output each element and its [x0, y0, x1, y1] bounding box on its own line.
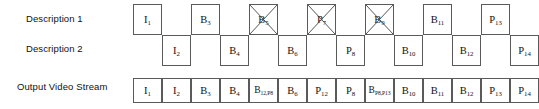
frame-label: B3: [192, 14, 219, 25]
frame-label: B3: [192, 85, 219, 96]
frame-cell-d2-b12: B12: [452, 35, 481, 66]
frame-cell-output-i1: I1: [133, 78, 162, 103]
frame-label: I1: [134, 85, 161, 96]
frame-label: P7: [308, 14, 335, 25]
frame-cell-d1-p7-lost: P7: [307, 4, 336, 35]
frame-label: B10: [395, 85, 422, 96]
output-stream-row: I1I2B3B4B12,P8B6P12P8BP8,P13B10B11B12P13…: [0, 70, 537, 109]
description-staircase: I1B3B5P7B9B11P13I2B4B6P8B10B12P14: [0, 0, 537, 70]
frame-cell-output-p8: P8: [336, 78, 365, 103]
frame-label: B11: [424, 85, 451, 96]
frame-cell-d2-p8: P8: [336, 35, 365, 66]
frame-label: P14: [511, 85, 538, 96]
frame-label: P8: [337, 45, 364, 56]
frame-label: P8: [337, 85, 364, 96]
frame-cell-output-p14: P14: [510, 78, 539, 103]
frame-label: B9: [366, 14, 393, 25]
frame-cell-d2-i2: I2: [162, 35, 191, 66]
frame-cell-output-b10: B10: [394, 78, 423, 103]
frame-label: P13: [482, 14, 509, 25]
frame-cell-d2-b6: B6: [278, 35, 307, 66]
frame-cell-output-p13: P13: [481, 78, 510, 103]
frame-label: B4: [221, 85, 248, 96]
frame-cell-output-b4: B4: [220, 78, 249, 103]
frame-label: B12,P8: [250, 86, 277, 96]
frame-cell-output-b6: B6: [278, 78, 307, 103]
frame-cell-d1-b9-lost: B9: [365, 4, 394, 35]
frame-label: B6: [279, 45, 306, 56]
frame-cell-d1-p13: P13: [481, 4, 510, 35]
frame-label: I2: [163, 45, 190, 56]
frame-cell-output-b12-P8: B12,P8: [249, 78, 278, 103]
frame-cell-output-i2: I2: [162, 78, 191, 103]
frame-label: B6: [279, 85, 306, 96]
frame-label: I1: [134, 14, 161, 25]
frame-cell-d1-b11: B11: [423, 4, 452, 35]
frame-cell-d1-i1: I1: [133, 4, 162, 35]
frame-label: BP8,P13: [366, 86, 393, 96]
frame-cell-output-b3: B3: [191, 78, 220, 103]
frame-cell-d2-b10: B10: [394, 35, 423, 66]
frame-label: B10: [395, 45, 422, 56]
frame-label: I2: [163, 85, 190, 96]
frame-cell-output-b12: B12: [452, 78, 481, 103]
frame-label: B11: [424, 14, 451, 25]
frame-cell-d2-p14: P14: [510, 35, 539, 66]
frame-label: P14: [511, 45, 538, 56]
frame-cell-d1-b3: B3: [191, 4, 220, 35]
frame-cell-output-bP8-P13: BP8,P13: [365, 78, 394, 103]
frame-cell-output-b11: B11: [423, 78, 452, 103]
frame-cell-d1-b5-lost: B5: [249, 4, 278, 35]
frame-cell-d2-b4: B4: [220, 35, 249, 66]
frame-label: B4: [221, 45, 248, 56]
frame-label: P12: [308, 85, 335, 96]
frame-label: B5: [250, 14, 277, 25]
frame-cell-output-p12: P12: [307, 78, 336, 103]
frame-label: P13: [482, 85, 509, 96]
frame-label: B12: [453, 45, 480, 56]
frame-label: B12: [453, 85, 480, 96]
